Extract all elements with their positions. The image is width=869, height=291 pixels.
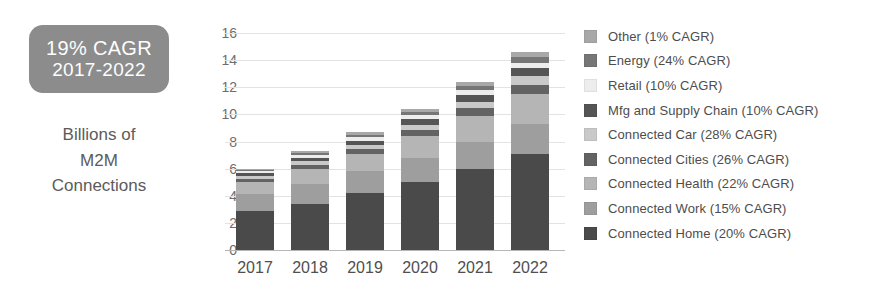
legend-swatch-icon [584,227,597,240]
bar-segment [456,108,494,115]
legend-item[interactable]: Mfg and Supply Chain (10% CAGR) [584,98,869,123]
legend-label: Retail (10% CAGR) [608,78,722,93]
plot-area: 1614121086420 201720182019202020212022 [190,0,575,291]
bar-2019[interactable] [346,132,384,250]
legend-item[interactable]: Other (1% CAGR) [584,24,869,49]
bar-2021[interactable] [456,82,494,250]
bar-segment [456,116,494,142]
bar-2020[interactable] [401,109,439,250]
legend-swatch-icon [584,104,597,117]
bar-segment [236,194,274,210]
x-axis-label-2021: 2021 [448,259,502,277]
bar-segment [511,154,549,250]
bar-2018[interactable] [291,151,329,250]
x-axis-label-2018: 2018 [283,259,337,277]
bar-segment [346,193,384,250]
bar-segment [236,182,274,194]
legend-label: Connected Home (20% CAGR) [608,226,791,241]
legend-label: Connected Car (28% CAGR) [608,127,777,142]
legend-item[interactable]: Connected Work (15% CAGR) [584,196,869,221]
bar-segment [401,136,439,158]
bar-segment [291,169,329,184]
bar-segment [511,76,549,85]
left-panel: 19% CAGR 2017-2022 Billions ofM2MConnect… [0,0,190,291]
legend-swatch-icon [584,177,597,190]
bar-segment [456,142,494,169]
bar-segment [511,68,549,75]
x-axis-label-2022: 2022 [503,259,557,277]
legend-label: Other (1% CAGR) [608,29,714,44]
bar-segment [401,158,439,182]
legend-label: Energy (24% CAGR) [608,53,730,68]
legend-item[interactable]: Connected Home (20% CAGR) [584,221,869,246]
bar-segment [346,171,384,193]
bar-segment [401,182,439,250]
legend-swatch-icon [584,30,597,43]
x-axis-label-2019: 2019 [338,259,392,277]
x-axis-label-2020: 2020 [393,259,447,277]
legend-swatch-icon [584,79,597,92]
bar-2017[interactable] [236,169,274,250]
legend-label: Connected Health (22% CAGR) [608,176,794,191]
legend-swatch-icon [584,128,597,141]
bar-segment [456,169,494,250]
bar-segment [456,102,494,109]
legend-label: Connected Work (15% CAGR) [608,201,787,216]
cagr-badge: 19% CAGR 2017-2022 [30,26,168,92]
bar-segment [291,204,329,250]
legend: Other (1% CAGR)Energy (24% CAGR)Retail (… [584,24,869,245]
bar-segment [511,94,549,124]
bar-segment [511,85,549,94]
y-axis-caption: Billions ofM2MConnections [18,122,180,199]
bar-segment [291,184,329,204]
bar-group [225,0,565,291]
bar-segment [346,154,384,172]
chart-page: 19% CAGR 2017-2022 Billions ofM2MConnect… [0,0,869,291]
legend-swatch-icon [584,202,597,215]
legend-item[interactable]: Energy (24% CAGR) [584,49,869,74]
cagr-badge-rate: 19% CAGR [46,37,152,59]
legend-item[interactable]: Retail (10% CAGR) [584,73,869,98]
legend-item[interactable]: Connected Car (28% CAGR) [584,122,869,147]
legend-swatch-icon [584,153,597,166]
bar-2022[interactable] [511,52,549,250]
legend-label: Mfg and Supply Chain (10% CAGR) [608,103,818,118]
bar-segment [456,95,494,102]
legend-swatch-icon [584,54,597,67]
bar-segment [236,211,274,250]
legend-label: Connected Cities (26% CAGR) [608,152,789,167]
cagr-badge-period: 2017-2022 [52,59,146,81]
x-axis-label-2017: 2017 [228,259,282,277]
legend-item[interactable]: Connected Health (22% CAGR) [584,172,869,197]
bar-segment [511,124,549,154]
legend-item[interactable]: Connected Cities (26% CAGR) [584,147,869,172]
